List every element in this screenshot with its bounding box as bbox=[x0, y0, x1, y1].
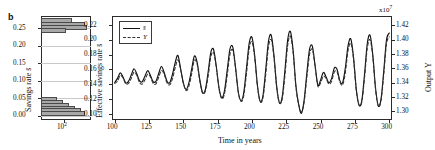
timeseries-right-tick-label: 1.32 bbox=[396, 93, 409, 101]
histogram-y-tick-label: 0.20 bbox=[13, 41, 26, 49]
histogram-y-tick-label: 0.05 bbox=[13, 94, 26, 102]
timeseries-plot-area: s̄Y bbox=[112, 16, 392, 120]
timeseries-x-tick-label: 150 bbox=[175, 123, 186, 131]
timeseries-x-tick bbox=[252, 120, 253, 123]
timeseries-legend: s̄Y bbox=[119, 21, 152, 44]
timeseries-x-tick-label: 275 bbox=[347, 123, 358, 131]
histogram-x-tick bbox=[64, 120, 65, 123]
timeseries-left-tick-label: 0.16 bbox=[84, 65, 97, 73]
timeseries-x-tick bbox=[389, 120, 390, 123]
timeseries-x-tick bbox=[286, 120, 287, 123]
legend-item-label: Y bbox=[143, 33, 147, 41]
histogram-y-axis-title: Savings rate s̄ bbox=[24, 68, 33, 112]
timeseries-left-tick bbox=[109, 84, 112, 85]
timeseries-right-tick bbox=[392, 25, 395, 26]
timeseries-right-tick bbox=[392, 68, 395, 69]
histogram-bar bbox=[41, 111, 85, 116]
panel-label-b: b bbox=[8, 12, 14, 22]
timeseries-left-tick-label: 0.10 bbox=[84, 110, 97, 118]
timeseries-x-tick-label: 200 bbox=[244, 123, 255, 131]
timeseries-x-axis-title: Time in years bbox=[218, 136, 262, 145]
histogram-y-tick-label: 0.00 bbox=[13, 111, 26, 119]
timeseries-left-tick bbox=[109, 69, 112, 70]
timeseries-curves bbox=[112, 16, 392, 120]
timeseries-left-tick-label: 0.12 bbox=[84, 95, 97, 103]
timeseries-left-tick-label: 0.20 bbox=[84, 35, 97, 43]
timeseries-left-tick bbox=[109, 25, 112, 26]
histogram-y-tick bbox=[38, 46, 41, 47]
histogram-x-tick-label: 102 bbox=[57, 121, 67, 131]
timeseries-left-tick-label: 0.14 bbox=[84, 80, 97, 88]
timeseries-x-tick bbox=[115, 120, 116, 123]
legend-dashed-line-icon bbox=[123, 37, 140, 38]
timeseries-right-tick bbox=[392, 111, 395, 112]
timeseries-x-tick bbox=[218, 120, 219, 123]
timeseries-right-tick-label: 1.30 bbox=[396, 107, 409, 115]
timeseries-right-tick bbox=[392, 54, 395, 55]
timeseries-x-tick-label: 125 bbox=[141, 123, 152, 131]
timeseries-x-tick-label: 100 bbox=[107, 123, 118, 131]
histogram-y-tick bbox=[38, 116, 41, 117]
legend-item-effective-savings-rate[interactable]: s̄ bbox=[123, 24, 147, 32]
timeseries-right-tick-label: 1.42 bbox=[396, 21, 409, 29]
histogram-bar bbox=[41, 28, 66, 33]
timeseries-x-tick bbox=[183, 120, 184, 123]
timeseries-left-tick bbox=[109, 114, 112, 115]
timeseries-left-tick-label: 0.22 bbox=[84, 21, 97, 29]
figure-panel-b: b Savings rate s̄ 0.250.200.150.100.050.… bbox=[0, 0, 435, 150]
timeseries-left-tick-label: 0.18 bbox=[84, 50, 97, 58]
timeseries-left-tick bbox=[109, 40, 112, 41]
histogram-gridline bbox=[41, 46, 91, 47]
legend-item-label: s̄ bbox=[143, 24, 146, 32]
timeseries-right-tick-label: 1.40 bbox=[396, 35, 409, 43]
timeseries-right-tick-label: 1.34 bbox=[396, 78, 409, 86]
histogram-y-tick bbox=[38, 28, 41, 29]
histogram-y-tick-label: 0.10 bbox=[13, 76, 26, 84]
timeseries-x-tick-label: 225 bbox=[278, 123, 289, 131]
timeseries-x-tick-label: 250 bbox=[313, 123, 324, 131]
timeseries-right-axis-title: Output Y bbox=[424, 62, 433, 92]
histogram-y-tick-label: 0.25 bbox=[13, 24, 26, 32]
timeseries-right-tick-label: 1.36 bbox=[396, 64, 409, 72]
histogram-y-tick bbox=[38, 81, 41, 82]
timeseries-x-tick bbox=[149, 120, 150, 123]
timeseries-right-tick bbox=[392, 83, 395, 84]
histogram-y-tick-label: 0.15 bbox=[13, 59, 26, 67]
timeseries-x-tick-label: 175 bbox=[210, 123, 221, 131]
histogram-y-tick bbox=[38, 98, 41, 99]
savings-rate-line bbox=[115, 31, 390, 113]
timeseries-right-tick-label: 1.38 bbox=[396, 50, 409, 58]
timeseries-x-tick bbox=[355, 120, 356, 123]
timeseries-right-tick bbox=[392, 97, 395, 98]
histogram-y-tick bbox=[38, 63, 41, 64]
timeseries-x-tick-label: 300 bbox=[381, 123, 392, 131]
timeseries-x-tick bbox=[321, 120, 322, 123]
timeseries-left-tick bbox=[109, 99, 112, 100]
timeseries-left-tick bbox=[109, 55, 112, 56]
legend-item-output[interactable]: Y bbox=[123, 33, 147, 41]
legend-solid-line-icon bbox=[123, 28, 140, 29]
timeseries-right-axis-multiplier: x107 bbox=[379, 4, 392, 14]
timeseries-right-tick bbox=[392, 40, 395, 41]
